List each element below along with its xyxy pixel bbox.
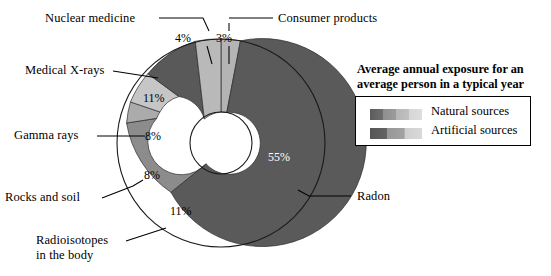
leader-nuclear-medicine xyxy=(159,18,209,31)
donut-inner-outline xyxy=(190,112,252,174)
legend-item-natural-sources[interactable]: Natural sources xyxy=(363,102,524,121)
leader-rocks-and-soil xyxy=(102,180,143,198)
value-label-gamma-rays: 8% xyxy=(145,129,161,144)
legend-title: Average annual exposure for anaverage pe… xyxy=(357,62,545,92)
legend-swatch-artificial-sources xyxy=(370,125,422,136)
legend-label-artificial-sources: Artificial sources xyxy=(431,123,517,138)
leader-radioisotopes xyxy=(126,228,166,241)
callout-label-nuclear-medicine: Nuclear medicine xyxy=(45,11,135,26)
value-label-medical-xrays: 11% xyxy=(143,91,165,106)
value-label-radon: 55% xyxy=(268,150,290,165)
value-label-consumer-products: 3% xyxy=(216,31,232,46)
callout-label-radioisotopes-line2: in the body xyxy=(36,248,93,263)
radiation-exposure-donut-chart-figure: Nuclear medicine Consumer products Medic… xyxy=(0,0,551,276)
legend-label-natural-sources: Natural sources xyxy=(431,104,509,119)
callout-label-consumer-products: Consumer products xyxy=(278,11,377,26)
callout-label-gamma-rays: Gamma rays xyxy=(14,128,79,143)
callout-label-rocks-and-soil: Rocks and soil xyxy=(5,190,80,205)
legend-title-line2: average person in a typical year xyxy=(357,77,524,91)
callout-label-radon: Radon xyxy=(357,189,390,204)
callout-label-medical-xrays: Medical X-rays xyxy=(25,63,105,78)
callout-label-radioisotopes-line1: Radioisotopes xyxy=(36,233,108,248)
legend: Average annual exposure for anaverage pe… xyxy=(355,62,545,146)
value-label-rocks-and-soil: 8% xyxy=(144,168,160,183)
legend-box: Natural sources Artificial sources xyxy=(355,96,531,146)
legend-title-line1: Average annual exposure for an xyxy=(357,62,524,76)
value-label-nuclear-medicine: 4% xyxy=(175,31,191,46)
value-label-radioisotopes: 11% xyxy=(170,204,192,219)
legend-swatch-natural-sources xyxy=(370,106,422,117)
legend-item-artificial-sources[interactable]: Artificial sources xyxy=(363,121,524,140)
